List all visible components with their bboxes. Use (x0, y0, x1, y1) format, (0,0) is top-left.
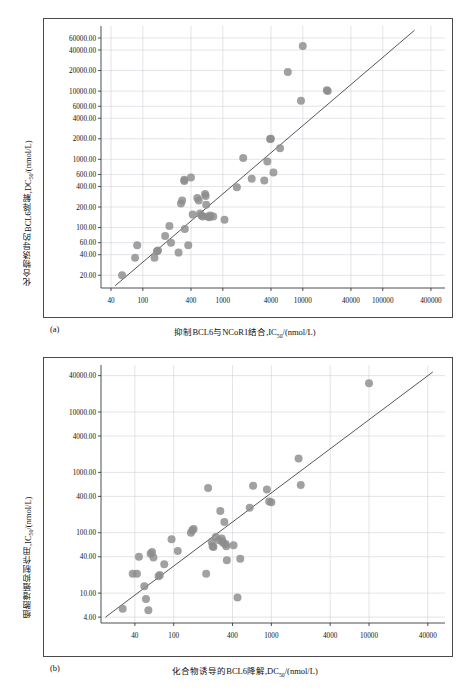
y-tick-label: 600.00 (76, 171, 96, 179)
data-point (248, 175, 256, 183)
panel-b-x-axis-title: 化合物诱导的BCL6降解,DC50/(nmol/L) (120, 664, 370, 678)
data-point (223, 556, 231, 564)
data-point (220, 518, 228, 526)
x-tick-label: 400 (227, 632, 238, 640)
data-point (246, 504, 254, 512)
data-point (156, 571, 164, 579)
grid-lines (101, 26, 445, 288)
data-points (118, 42, 332, 279)
data-point (239, 154, 247, 162)
data-point (135, 553, 143, 561)
data-point (181, 225, 189, 233)
data-point (202, 192, 210, 200)
data-point (233, 183, 241, 191)
y-tick-label: 6000.00 (73, 103, 97, 111)
data-point (189, 211, 197, 219)
data-point (160, 560, 168, 568)
y-tick-label: 10.00 (80, 590, 97, 598)
panel-b-plot: 401004001000400010000400004.0010.0040.00… (43, 357, 451, 655)
x-title-pre-b: 化合物诱导的BCL6降解,DC (172, 666, 279, 676)
data-point (165, 222, 173, 230)
data-point (365, 379, 373, 387)
x-tick-label: 10000 (360, 632, 378, 640)
data-point (236, 555, 244, 563)
y-tick-label: 100.00 (76, 224, 96, 232)
data-point (209, 213, 217, 221)
y-tick-label: 20000.00 (69, 67, 96, 75)
data-point (174, 547, 182, 555)
data-point (118, 271, 126, 279)
data-point (184, 241, 192, 249)
data-point (299, 42, 307, 50)
x-tick-label: 40000 (342, 297, 360, 305)
data-point (202, 201, 210, 209)
y-tick-label: 10000.00 (69, 409, 96, 417)
y-tick-label: 10000.00 (69, 88, 96, 96)
data-point (263, 486, 271, 494)
y-tick-label: 60000.00 (69, 35, 96, 43)
figure-container: 化合物诱导的BCL6降解,DC50/(nmol/L) 4010040010004… (0, 0, 467, 691)
panel-b-y-axis-title: 细胞增殖抑制作用,IC50/(nmol/L) (22, 403, 34, 618)
panel-a-x-axis-title: 抑制BCL6与NCoR1结合,IC50/(nmol/L) (120, 325, 370, 339)
data-point (178, 196, 186, 204)
data-point (297, 97, 305, 105)
x-tick-label: 40000 (419, 632, 437, 640)
y-tick-label: 40000.00 (69, 47, 96, 55)
data-point (249, 482, 257, 490)
data-point (168, 535, 176, 543)
y-tick-label: 100.00 (76, 529, 96, 537)
data-point (230, 541, 238, 549)
x-title-post-b: /(nmol/L) (285, 666, 318, 676)
panel-a-plot: 4010040010004000100004000010000040000020… (43, 18, 451, 316)
x-tick-label: 4000 (264, 297, 279, 305)
data-point (161, 232, 169, 240)
data-point (222, 542, 230, 550)
x-tick-label: 40 (107, 297, 115, 305)
data-point (195, 196, 203, 204)
panel-a: 化合物诱导的BCL6降解,DC50/(nmol/L) 4010040010004… (0, 0, 467, 345)
data-point (267, 498, 275, 506)
y-tick-label: 20.00 (80, 272, 97, 280)
x-tick-label: 100000 (372, 297, 394, 305)
data-points (119, 379, 373, 614)
x-tick-label: 400000 (420, 297, 442, 305)
data-point (144, 606, 152, 614)
data-point (297, 481, 305, 489)
x-tick-label: 1000 (264, 632, 279, 640)
data-point (119, 605, 127, 613)
y-title-pre-b: 细胞增殖抑制作用,IC (23, 535, 33, 618)
panel-b-tag: (b) (50, 663, 60, 673)
panel-a-y-axis-title: 化合物诱导的BCL6降解,DC50/(nmol/L) (22, 56, 34, 286)
data-point (187, 174, 195, 182)
data-point (133, 570, 141, 578)
data-point (202, 570, 210, 578)
data-point (142, 595, 150, 603)
y-title-pre-a: 化合物诱导的BCL6降解,DC (23, 179, 33, 286)
data-point (209, 543, 217, 551)
y-tick-label: 40000.00 (69, 372, 96, 380)
y-tick-label: 4000.00 (73, 433, 97, 441)
data-point (269, 169, 277, 177)
x-title-pre-a: 抑制BCL6与NCoR1结合,IC (174, 327, 276, 337)
data-point (133, 241, 141, 249)
y-tick-label: 2000.00 (73, 135, 97, 143)
y-tick-label: 4.00 (83, 614, 96, 622)
x-tick-label: 100 (137, 297, 148, 305)
x-title-post-a: /(nmol/L) (283, 327, 316, 337)
y-title-sub-a: 50 (28, 174, 34, 180)
x-tick-label: 400 (186, 297, 197, 305)
grid-lines (101, 365, 445, 623)
data-point (167, 239, 175, 247)
y-tick-label: 60.00 (80, 239, 97, 247)
data-point (260, 176, 268, 184)
y-tick-label: 1000.00 (73, 156, 97, 164)
data-point (190, 525, 198, 533)
data-point (149, 553, 157, 561)
y-tick-label: 400.00 (76, 183, 96, 191)
panel-a-tag: (a) (50, 324, 59, 334)
y-tick-label: 40.00 (80, 251, 97, 259)
data-point (204, 484, 212, 492)
y-tick-label: 400.00 (76, 493, 96, 501)
data-point (276, 144, 284, 152)
data-point (220, 216, 228, 224)
